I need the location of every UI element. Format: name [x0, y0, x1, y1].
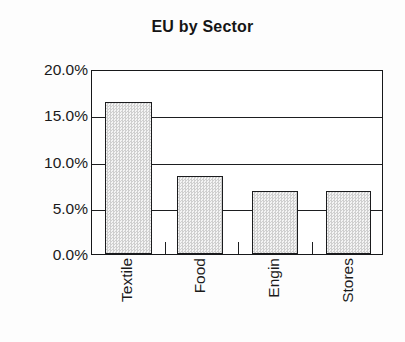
y-tick-label-20: 20.0% — [8, 61, 88, 79]
y-tick-label-10: 10.0% — [8, 154, 88, 172]
plot-area — [91, 70, 383, 255]
bar-engin — [252, 191, 298, 254]
x-tick-2 — [238, 242, 239, 254]
x-axis-label-stores: Stores — [339, 258, 357, 303]
chart-figure: EU by Sector 0.0% 5.0% 10.0% 15.0% 20.0%… — [0, 0, 405, 342]
x-axis: Textile Food Engin Stores — [0, 258, 405, 342]
x-cat-wrap-engin: Engin — [265, 258, 283, 340]
x-cat-wrap-stores: Stores — [339, 258, 357, 340]
y-tick-label-5: 5.0% — [8, 200, 88, 218]
x-cat-wrap-food: Food — [191, 258, 209, 340]
x-cat-wrap-textile: Textile — [118, 258, 136, 340]
bar-stores — [326, 191, 371, 254]
y-tick-label-15: 15.0% — [8, 107, 88, 125]
bar-textile — [105, 102, 152, 254]
x-axis-label-engin: Engin — [265, 258, 283, 298]
x-tick-3 — [312, 242, 313, 254]
x-axis-label-textile: Textile — [118, 258, 136, 302]
x-tick-1 — [165, 242, 166, 254]
x-axis-label-food: Food — [191, 258, 209, 293]
bar-food — [177, 176, 223, 254]
